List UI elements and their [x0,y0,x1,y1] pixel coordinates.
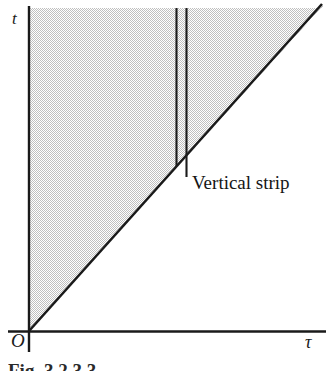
tau-axis-label: τ [305,333,311,351]
figure-container: t τ O Vertical strip Fig. 3.2 3.3 [0,0,331,371]
origin-label: O [11,331,25,350]
figure-caption-partial: Fig. 3.2 3.3 [8,361,328,371]
t-axis-label: t [12,10,17,27]
vertical-strip-annotation: Vertical strip [192,173,290,192]
